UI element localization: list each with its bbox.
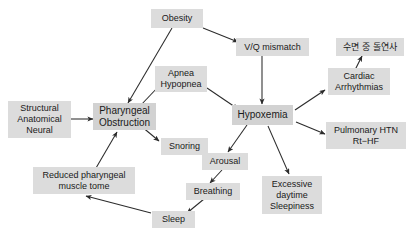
node-excessive-daytime-sleepiness[interactable]: Excessive daytime Sleepiness	[262, 176, 322, 214]
node-sudden-death-during-sleep[interactable]: 수면 중 돌연사	[336, 38, 404, 56]
node-sleepiness-line-1: Excessive	[272, 179, 313, 190]
node-sleepiness-line-3: Sleepiness	[270, 201, 314, 212]
node-pulmonary-htn-line-1: Pulmonary HTN	[334, 125, 398, 136]
node-obesity-label: Obesity	[162, 13, 193, 24]
edge-hypoxemia-to-arousal	[228, 125, 247, 152]
diagram-canvas: Structural Anatomical Neural Obesity Pha…	[0, 0, 415, 239]
edge-arousal-to-breathing	[210, 170, 222, 183]
node-muscle-tone-line-2: muscle tome	[58, 181, 109, 192]
node-sleepiness-line-2: daytime	[276, 190, 308, 201]
node-sudden-death-label: 수면 중 돌연사	[343, 42, 397, 53]
node-pulmonary-htn[interactable]: Pulmonary HTN Rt−HF	[326, 122, 406, 149]
node-apnea-line-2: Hypopnea	[160, 79, 201, 90]
edge-obesity-to-vq	[203, 28, 238, 42]
node-pharyngeal-obstruction-line-1: Pharyngeal	[99, 105, 150, 117]
node-hypoxemia-label: Hypoxemia	[237, 109, 287, 121]
edge-hypoxemia-to-pulmonary-htn	[296, 122, 325, 134]
node-cardiac-line-2: Arrhythmias	[335, 82, 383, 93]
edge-hypoxemia-to-cardiac	[295, 90, 325, 110]
node-reduced-pharyngeal-muscle-tone[interactable]: Reduced pharyngeal muscle tome	[33, 167, 135, 194]
node-pharyngeal-obstruction[interactable]: Pharyngeal Obstruction	[93, 103, 156, 130]
node-vq-mismatch[interactable]: V/Q mismatch	[236, 38, 309, 56]
node-snoring-label: Snoring	[169, 141, 200, 152]
node-vq-mismatch-label: V/Q mismatch	[244, 42, 301, 53]
edge-muscle-tone-to-obstruction	[96, 132, 117, 168]
node-muscle-tone-line-1: Reduced pharyngeal	[42, 170, 125, 181]
node-arousal[interactable]: Arousal	[202, 153, 248, 170]
node-arousal-label: Arousal	[210, 156, 241, 167]
node-cardiac-line-1: Cardiac	[343, 71, 374, 82]
node-structural-line-2: Anatomical	[17, 114, 62, 125]
node-breathing[interactable]: Breathing	[186, 183, 240, 200]
node-pulmonary-htn-line-2: Rt−HF	[353, 136, 379, 147]
node-obesity[interactable]: Obesity	[151, 9, 203, 28]
edge-sleep-to-muscle-tone	[86, 196, 151, 213]
edge-hypoxemia-to-sleepiness	[268, 126, 289, 174]
node-structural-line-3: Neural	[26, 125, 53, 136]
node-pharyngeal-obstruction-line-2: Obstruction	[99, 117, 150, 129]
node-structural-line-1: Structural	[20, 103, 59, 114]
node-breathing-label: Breathing	[194, 186, 233, 197]
node-snoring[interactable]: Snoring	[161, 138, 208, 155]
node-sleep[interactable]: Sleep	[152, 211, 195, 228]
node-apnea-line-1: Apnea	[168, 68, 194, 79]
node-structural[interactable]: Structural Anatomical Neural	[8, 101, 71, 138]
node-hypoxemia[interactable]: Hypoxemia	[232, 105, 293, 125]
node-sleep-label: Sleep	[162, 214, 185, 225]
node-apnea-hypopnea[interactable]: Apnea Hypopnea	[155, 66, 207, 92]
node-cardiac-arrhythmias[interactable]: Cardiac Arrhythmias	[328, 68, 390, 95]
